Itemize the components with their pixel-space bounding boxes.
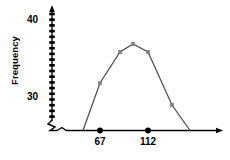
x-tick-dot-112 [145,128,151,134]
arrow-up-icon [49,5,55,12]
data-point [98,81,102,85]
x-tick-dot-67 [97,128,103,134]
arrow-right-icon [216,128,223,134]
x-tick-label-112: 112 [133,136,163,147]
data-point [170,103,174,107]
frequency-polygon-chart: Frequency 40 30 67 112 [0,0,230,160]
data-point [146,50,150,54]
y-tick-label-40: 40 [10,14,38,25]
frequency-polygon-line [83,44,190,131]
data-point [118,50,122,54]
data-point [131,42,135,46]
axis-break-zigzag-icon [48,120,66,131]
data-point-markers [98,42,174,107]
y-tick-label-30: 30 [10,91,38,102]
x-tick-label-67: 67 [85,136,115,147]
